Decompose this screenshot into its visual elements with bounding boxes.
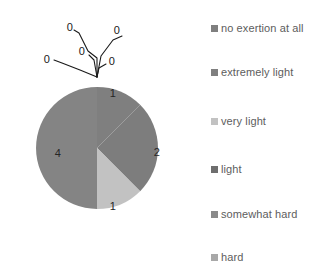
pie-chart: 1214 00000 no exertion at allextremely l… xyxy=(0,0,333,272)
legend-item[interactable]: very light xyxy=(211,115,333,128)
leader-line-1 xyxy=(74,30,97,77)
legend-swatch-icon xyxy=(211,25,218,32)
zero-callout-label: 0 xyxy=(109,56,115,67)
zero-callout-label: 0 xyxy=(44,54,50,65)
legend-item[interactable]: no exertion at all xyxy=(211,22,333,35)
legend-item[interactable]: extremely light xyxy=(211,66,333,79)
legend-swatch-icon xyxy=(211,69,218,76)
leader-line-5 xyxy=(54,60,97,77)
legend-item-label: hard xyxy=(221,251,243,264)
legend-swatch-icon xyxy=(211,254,218,261)
legend-swatch-icon xyxy=(211,118,218,125)
legend-item-label: light xyxy=(221,163,242,176)
chart-legend: no exertion at allextremely lightvery li… xyxy=(211,0,333,272)
zero-callout-label: 0 xyxy=(67,22,73,33)
legend-item-label: extremely light xyxy=(221,66,293,79)
zero-callout-label: 0 xyxy=(114,25,120,36)
slice-value-label: 2 xyxy=(154,147,160,158)
zero-callout-leader-lines xyxy=(54,30,122,77)
legend-swatch-icon xyxy=(211,166,218,173)
legend-item[interactable]: somewhat hard xyxy=(211,208,333,221)
pie-slice xyxy=(36,87,97,209)
legend-swatch-icon xyxy=(211,211,218,218)
pie-slices-svg xyxy=(0,0,205,272)
leader-line-4 xyxy=(97,64,106,77)
slice-value-label: 4 xyxy=(55,148,61,159)
legend-item-label: no exertion at all xyxy=(221,22,304,35)
legend-item-label: very light xyxy=(221,115,266,128)
legend-item[interactable]: hard xyxy=(211,251,333,264)
legend-item[interactable]: light xyxy=(211,163,333,176)
slice-value-label: 1 xyxy=(110,201,116,212)
slice-value-label: 1 xyxy=(110,88,116,99)
legend-item-label: somewhat hard xyxy=(221,208,298,221)
pie-plot-area: 1214 00000 xyxy=(0,0,205,272)
zero-callout-label: 0 xyxy=(79,46,85,57)
